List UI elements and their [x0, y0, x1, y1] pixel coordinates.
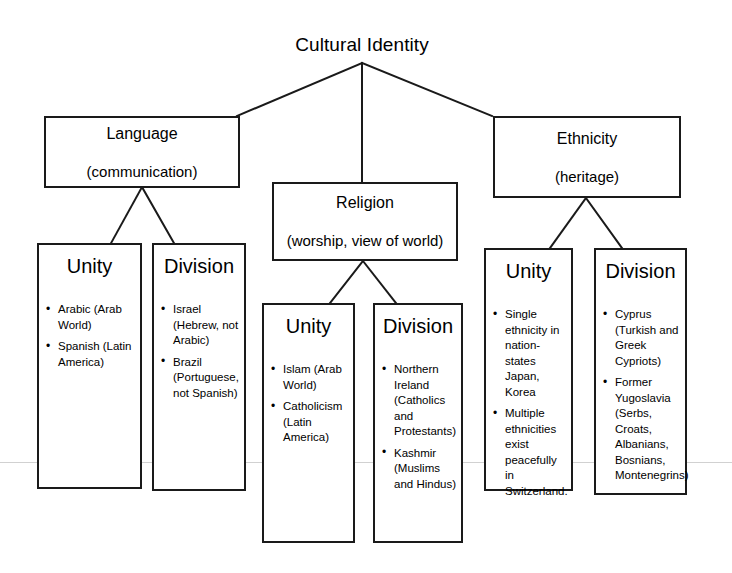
leaf-title-religion-division: Division: [375, 315, 461, 338]
list-item: Multiple ethnicities exist peacefully in…: [490, 406, 568, 499]
leaf-box-ethnicity-unity[interactable]: Unity Single ethnicity in nation-states …: [484, 248, 573, 491]
connector-language-to-division: [142, 187, 175, 245]
leaf-title-ethnicity-division: Division: [596, 260, 685, 283]
leaf-box-language-division[interactable]: Division Israel (Hebrew, not Arabic) Bra…: [152, 243, 246, 491]
list-item: Brazil (Portuguese, not Spanish): [158, 355, 240, 402]
connector-religion-to-division: [363, 261, 396, 303]
leaf-list-religion-division: Northern Ireland (Catholics and Protesta…: [375, 362, 461, 492]
list-item: Israel (Hebrew, not Arabic): [158, 302, 240, 349]
list-item: Kashmir (Muslims and Hindus): [379, 446, 458, 493]
leaf-list-ethnicity-unity: Single ethnicity in nation-states Japan,…: [486, 307, 571, 499]
branch-box-language[interactable]: Language (communication): [44, 116, 240, 188]
leaf-list-language-unity: Arabic (Arab World) Spanish (Latin Ameri…: [39, 302, 140, 370]
connector-language-to-unity: [110, 187, 142, 245]
root-node-cultural-identity: Cultural Identity: [281, 34, 443, 56]
connector-religion-to-unity: [330, 261, 363, 303]
leaf-box-ethnicity-division[interactable]: Division Cyprus (Turkish and Greek Cypri…: [594, 248, 687, 495]
leaf-list-religion-unity: Islam (Arab World) Catholicism (Latin Am…: [264, 362, 353, 446]
leaf-box-religion-unity[interactable]: Unity Islam (Arab World) Catholicism (La…: [262, 303, 355, 543]
branch-subtitle-language: (communication): [87, 163, 198, 180]
leaf-box-language-unity[interactable]: Unity Arabic (Arab World) Spanish (Latin…: [37, 243, 142, 489]
branch-title-language: Language: [106, 125, 177, 143]
leaf-title-religion-unity: Unity: [264, 315, 353, 338]
leaf-title-ethnicity-unity: Unity: [486, 260, 571, 283]
list-item: Arabic (Arab World): [43, 302, 134, 333]
list-item: Islam (Arab World): [268, 362, 348, 393]
list-item: Cyprus (Turkish and Greek Cypriots): [600, 307, 682, 369]
branch-box-religion[interactable]: Religion (worship, view of world): [272, 182, 458, 261]
leaf-list-ethnicity-division: Cyprus (Turkish and Greek Cypriots) Form…: [596, 307, 685, 484]
branch-title-ethnicity: Ethnicity: [557, 130, 617, 148]
leaf-title-language-unity: Unity: [39, 255, 140, 278]
list-item: Single ethnicity in nation-states Japan,…: [490, 307, 568, 400]
branch-box-ethnicity[interactable]: Ethnicity (heritage): [493, 116, 681, 198]
list-item: Former Yugoslavia (Serbs, Croats, Albani…: [600, 375, 682, 484]
branch-title-religion: Religion: [336, 194, 394, 212]
list-item: Spanish (Latin America): [43, 339, 134, 370]
connector-ethnicity-to-unity: [550, 198, 586, 248]
list-item: Northern Ireland (Catholics and Protesta…: [379, 362, 458, 440]
connector-ethnicity-to-division: [586, 198, 622, 248]
leaf-box-religion-division[interactable]: Division Northern Ireland (Catholics and…: [373, 303, 463, 543]
cultural-identity-diagram: Cultural Identity Language (communicatio…: [0, 0, 732, 573]
connector-root-to-ethnicity: [362, 63, 492, 116]
list-item: Catholicism (Latin America): [268, 399, 348, 446]
leaf-list-language-division: Israel (Hebrew, not Arabic) Brazil (Port…: [154, 302, 244, 401]
leaf-title-language-division: Division: [154, 255, 244, 278]
branch-subtitle-ethnicity: (heritage): [555, 168, 619, 185]
connector-root-to-language: [237, 63, 362, 116]
branch-subtitle-religion: (worship, view of world): [287, 232, 444, 249]
